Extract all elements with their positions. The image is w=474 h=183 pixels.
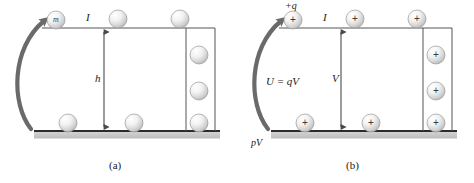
sphere bbox=[109, 10, 127, 28]
panel-a-drawing bbox=[0, 0, 237, 183]
plus-sign-icon: + bbox=[414, 14, 420, 24]
physics-analogy-figure: m I h (a) bbox=[0, 0, 474, 183]
ground-slab bbox=[271, 132, 457, 139]
plus-sign-icon: + bbox=[368, 118, 374, 128]
current-label-a: I bbox=[86, 12, 90, 23]
panel-a-gravity-analogy: m I h (a) bbox=[0, 0, 237, 183]
plus-sign-icon: + bbox=[352, 14, 358, 24]
sphere-column bbox=[190, 46, 208, 100]
charge-label: +q bbox=[285, 1, 297, 11]
panel-b-caption: (b) bbox=[346, 160, 359, 171]
plus-sign-icon: + bbox=[290, 15, 296, 25]
plus-sign-icon: + bbox=[433, 118, 439, 128]
panel-a-caption: (a) bbox=[109, 160, 121, 171]
return-path-arrow bbox=[17, 21, 44, 129]
plus-sign-icon: + bbox=[433, 86, 439, 96]
energy-equation-label: U = qV bbox=[266, 76, 299, 87]
sphere bbox=[171, 10, 189, 28]
ground-slab bbox=[34, 132, 220, 139]
plus-sign-icon: + bbox=[302, 118, 308, 128]
sphere bbox=[190, 114, 208, 132]
sphere bbox=[190, 82, 208, 100]
plus-sign-icon: + bbox=[433, 50, 439, 60]
sphere bbox=[59, 114, 77, 132]
voltage-label: V bbox=[332, 73, 339, 84]
sphere bbox=[125, 114, 143, 132]
height-label: h bbox=[95, 73, 101, 84]
sphere bbox=[190, 46, 208, 64]
current-label-b: I bbox=[323, 12, 327, 23]
mass-sphere-label: m bbox=[53, 16, 59, 24]
power-label: pV bbox=[251, 138, 262, 148]
sphere-top-row bbox=[47, 10, 189, 29]
panel-b-electrical-analogy: + + + + + + + + +q I V U = qV pV (b) bbox=[237, 0, 474, 183]
